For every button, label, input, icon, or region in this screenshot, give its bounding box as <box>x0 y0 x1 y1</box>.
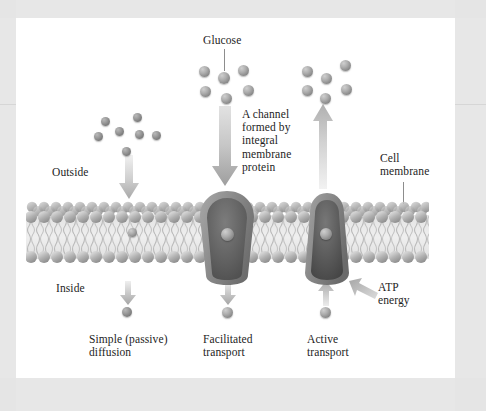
caption-facilitated-transport: Facilitated transport <box>203 333 253 359</box>
molecule <box>302 85 313 96</box>
molecule <box>133 113 142 122</box>
atp-energy-label: ATP energy <box>378 281 410 307</box>
arrow-facilitated-in <box>211 106 239 187</box>
molecule <box>341 84 352 95</box>
paper-texture-right <box>455 0 486 411</box>
arrow-simple-diffusion-out <box>119 281 137 306</box>
paper-texture-top <box>0 0 486 18</box>
molecule <box>320 93 331 104</box>
molecule-in-pump <box>320 228 332 240</box>
glucose-leader-line <box>224 49 225 71</box>
molecule <box>221 93 232 104</box>
molecule <box>218 72 230 84</box>
caption-simple-diffusion: Simple (passive) diffusion <box>89 333 168 359</box>
inside-label: Inside <box>56 282 85 295</box>
figure-page: Glucose A channel formed by integral mem… <box>0 0 486 411</box>
molecule <box>152 131 161 140</box>
channel-note-label: A channel formed by integral membrane pr… <box>242 108 291 174</box>
molecule <box>222 307 233 318</box>
molecule <box>199 66 210 77</box>
molecule <box>115 127 124 136</box>
molecule <box>200 86 211 97</box>
molecule <box>243 85 254 96</box>
molecule <box>302 66 313 77</box>
molecule <box>135 130 144 139</box>
molecule <box>340 60 351 71</box>
molecule <box>238 65 249 76</box>
paper-texture-bottom <box>0 378 486 411</box>
caption-active-transport: Active transport <box>307 333 349 359</box>
molecule-in-bilayer <box>128 228 137 237</box>
molecule-in-channel <box>221 228 234 241</box>
arrow-atp-energy <box>349 277 379 302</box>
cell-membrane-label: Cell membrane <box>380 152 429 178</box>
arrow-simple-diffusion-in <box>118 155 140 200</box>
molecule <box>320 307 331 318</box>
outside-label: Outside <box>52 166 88 179</box>
molecule <box>94 132 103 141</box>
arrow-active-transport-out <box>312 104 334 189</box>
paper-texture-left <box>0 0 16 411</box>
glucose-label: Glucose <box>203 34 241 47</box>
molecule <box>122 147 131 156</box>
molecule <box>122 307 132 317</box>
molecule <box>321 73 332 84</box>
molecule <box>101 117 110 126</box>
